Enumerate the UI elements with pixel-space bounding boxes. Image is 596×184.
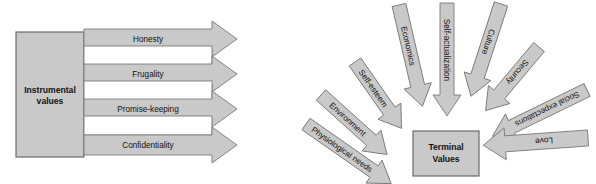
arrow-frugality-label: Frugality bbox=[132, 70, 164, 79]
instrumental-values-label-line1: Instrumental bbox=[24, 85, 76, 95]
arrow-confidentiality-label: Confidentiality bbox=[122, 141, 174, 150]
right-diagram: Physiological needs Environment Self-est… bbox=[298, 0, 593, 184]
left-diagram: Instrumental values Honesty Frugality Pr… bbox=[0, 0, 596, 184]
terminal-values-label-line1: Terminal bbox=[428, 142, 463, 152]
gap-box-1 bbox=[84, 46, 212, 65]
arrow-honesty-label: Honesty bbox=[133, 35, 164, 44]
arrow-love-label: Love bbox=[534, 135, 553, 145]
figure-canvas: Instrumental values Honesty Frugality Pr… bbox=[0, 0, 596, 184]
arrow-promise-keeping-label: Promise-keeping bbox=[117, 105, 179, 114]
arrow-self-esteem-label: Self-esteem bbox=[357, 68, 390, 109]
gap-box-3 bbox=[84, 116, 212, 135]
arrow-self-actualization: Self-actualization bbox=[433, 3, 461, 116]
arrow-self-actualization-label: Self-actualization bbox=[442, 19, 451, 82]
instrumental-values-label-line2: values bbox=[37, 96, 64, 106]
arrow-social-expectations-label: Social expectations bbox=[514, 89, 581, 128]
gap-box-2 bbox=[84, 81, 212, 100]
arrow-environment-label: Environment bbox=[327, 101, 368, 139]
arrow-economics: Economics bbox=[385, 2, 436, 110]
terminal-values-label-line2: Values bbox=[432, 154, 459, 164]
